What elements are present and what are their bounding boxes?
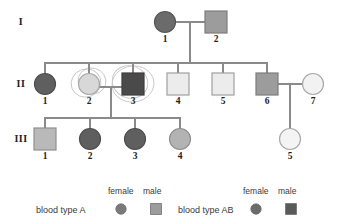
individual-number-ii-7: 7 bbox=[304, 96, 322, 106]
individual-number-ii-2: 2 bbox=[80, 96, 98, 106]
individual-number-iii-1: 1 bbox=[36, 151, 54, 161]
generation-label-ii: II bbox=[8, 78, 34, 89]
legend-ab-female-header: female bbox=[243, 186, 269, 196]
pedigree-figure: IIIIII 12123456712345 female male female… bbox=[0, 0, 338, 220]
individual-number-ii-5: 5 bbox=[214, 96, 232, 106]
individual-ii-6-male bbox=[256, 73, 278, 95]
legend-blood-type-ab-male-symbol bbox=[286, 204, 297, 215]
legend-ab-label: blood type AB bbox=[178, 205, 234, 215]
legend-blood-type-ab-female-symbol bbox=[251, 204, 261, 214]
individual-number-iii-3: 3 bbox=[126, 151, 144, 161]
legend-ab-male-header: male bbox=[278, 186, 296, 196]
individual-ii-3-male bbox=[122, 73, 144, 95]
pedigree-symbol-layer bbox=[34, 11, 324, 150]
generation-label-iii: III bbox=[8, 133, 34, 144]
individual-iii-5-female bbox=[280, 129, 301, 150]
individual-ii-2-female bbox=[79, 74, 100, 95]
individual-number-i-2: 2 bbox=[207, 34, 225, 44]
individual-number-ii-6: 6 bbox=[258, 96, 276, 106]
legend-a-label: blood type A bbox=[36, 205, 86, 215]
individual-ii-7-female bbox=[303, 74, 324, 95]
individual-iii-2-female bbox=[80, 129, 101, 150]
individual-number-ii-1: 1 bbox=[36, 96, 54, 106]
individual-ii-1-female bbox=[35, 74, 56, 95]
individual-iii-3-female bbox=[125, 129, 146, 150]
generation-label-i: I bbox=[8, 16, 34, 27]
individual-i-2-male bbox=[205, 11, 227, 33]
individual-ii-4-male bbox=[167, 73, 189, 95]
individual-iii-4-female bbox=[170, 129, 191, 150]
individual-number-ii-4: 4 bbox=[169, 96, 187, 106]
individual-ii-5-male bbox=[212, 73, 234, 95]
legend-blood-type-a-female-symbol bbox=[116, 204, 126, 214]
legend-blood-type-a-male-symbol bbox=[151, 204, 162, 215]
individual-number-ii-3: 3 bbox=[124, 96, 142, 106]
individual-i-1-female bbox=[155, 12, 176, 33]
individual-number-iii-2: 2 bbox=[81, 151, 99, 161]
legend-a-female-header: female bbox=[108, 186, 134, 196]
individual-number-iii-5: 5 bbox=[281, 151, 299, 161]
individual-iii-1-male bbox=[34, 128, 56, 150]
legend-a-male-header: male bbox=[143, 186, 161, 196]
individual-number-iii-4: 4 bbox=[171, 151, 189, 161]
individual-number-i-1: 1 bbox=[156, 34, 174, 44]
